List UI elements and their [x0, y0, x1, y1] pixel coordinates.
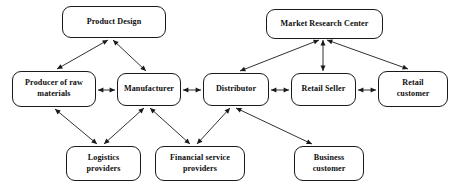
node-producer-raw[interactable]: Producer of raw materials — [12, 71, 96, 107]
node-financial-providers[interactable]: Financial service providers — [155, 146, 245, 181]
node-distributor[interactable]: Distributor — [203, 73, 269, 106]
edge-market-research-to-distributor — [240, 40, 319, 72]
node-label-logistics-providers: Logistics providers — [83, 153, 123, 174]
node-product-design[interactable]: Product Design — [62, 6, 166, 38]
edge-market-research-to-retail-seller — [321, 40, 326, 71]
node-label-retail-seller: Retail Seller — [299, 84, 349, 95]
node-label-market-research: Market Research Center — [278, 19, 372, 30]
edge-distributor-to-financial — [197, 108, 230, 144]
edge-producer-to-manufacturer — [98, 88, 115, 93]
node-label-producer-raw: Producer of raw materials — [22, 78, 86, 99]
diagram-canvas: Product DesignMarket Research CenterProd… — [0, 0, 463, 191]
edge-manufacturer-to-distributor — [183, 88, 201, 93]
edge-manufacturer-to-logistics — [104, 108, 144, 144]
edge-producer-to-logistics — [55, 109, 97, 144]
node-label-distributor: Distributor — [213, 84, 259, 95]
node-retail-seller[interactable]: Retail Seller — [291, 73, 356, 106]
node-market-research[interactable]: Market Research Center — [266, 9, 383, 39]
edge-distributor-to-retail-seller — [271, 88, 289, 93]
node-manufacturer[interactable]: Manufacturer — [117, 73, 181, 106]
edge-manufacturer-to-financial — [150, 108, 190, 144]
node-label-product-design: Product Design — [84, 17, 145, 28]
node-label-financial-providers: Financial service providers — [167, 153, 233, 174]
edge-market-research-to-retail-customer — [327, 39, 408, 69]
edge-retail-seller-to-retail-customer — [358, 88, 376, 93]
node-label-manufacturer: Manufacturer — [121, 84, 177, 95]
edge-distributor-to-business-customer — [236, 108, 312, 144]
node-label-business-customer: Business customer — [310, 153, 349, 174]
node-logistics-providers[interactable]: Logistics providers — [66, 146, 141, 181]
edge-product-design-to-producer — [57, 40, 108, 69]
edge-product-design-to-manufacturer — [113, 40, 146, 71]
node-business-customer[interactable]: Business customer — [294, 146, 364, 181]
node-retail-customer[interactable]: Retail customer — [378, 71, 448, 107]
node-label-retail-customer: Retail customer — [394, 78, 433, 99]
